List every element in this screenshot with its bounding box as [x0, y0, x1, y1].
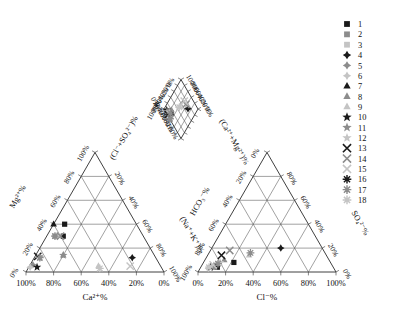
legend-item[interactable]: 9 [343, 103, 362, 112]
legend-label: 4 [358, 51, 363, 60]
cation-left-ticks-label: 40% [34, 217, 49, 233]
triangle-marker [343, 103, 350, 110]
legend-symbol-diamond [343, 61, 351, 69]
legend-label: 7 [358, 82, 362, 91]
legend-label: 3 [358, 41, 362, 50]
diamond-right-upper-tickmarks-tick [188, 90, 191, 92]
anion-left-axis-title: HCO₃⁻% [188, 185, 212, 217]
legend-item[interactable]: 18 [343, 196, 367, 205]
anion-left-ticks-label: 40% [220, 193, 235, 209]
cation-right-tickmarks-tick [150, 246, 153, 248]
cation-left-ticks-label: 100% [75, 144, 91, 163]
anion-right-tickmarks-tick [281, 175, 284, 177]
legend-item[interactable]: 11 [342, 123, 366, 133]
cation-right-tickmarks-tick [95, 151, 98, 153]
legend-label: 5 [358, 62, 362, 71]
legend-item[interactable]: 15 [343, 165, 366, 174]
anion-left-tickmarks-tick [264, 151, 267, 153]
anion-triangle-outline [198, 152, 336, 272]
legend-item[interactable]: 7 [343, 82, 362, 91]
legend-symbol-square [344, 21, 350, 27]
cation-right-tickmarks-tick [123, 199, 126, 201]
diamond-right-upper-ticks: 100%80%60%40%20%0% [184, 73, 216, 119]
legend-item[interactable]: 5 [343, 61, 362, 70]
asterisk-marker [167, 109, 175, 117]
diamond-right-lower-tickmarks-tick [181, 138, 184, 140]
legend-symbol-cross [343, 165, 351, 173]
legend-item[interactable]: 10 [342, 112, 366, 122]
legend-symbol-diamond [343, 51, 351, 59]
anion-triangle-grid [253, 200, 294, 272]
cation-triangle-grid [136, 248, 150, 272]
diamond-marker [343, 72, 351, 80]
cation-left-ticks-label: 80% [62, 169, 77, 185]
legend-symbol-triangle [343, 103, 350, 110]
square-marker [344, 21, 350, 27]
star-marker [342, 112, 351, 121]
cation-bottom-tick-label: 20% [129, 279, 144, 288]
diamond-right-upper-tickmarks-tick [198, 107, 201, 109]
anion-right-tickmarks [267, 151, 339, 272]
anion-left-ticks-label: 0% [248, 147, 261, 160]
legend-item[interactable]: 4 [343, 51, 363, 60]
diamond-right-lower-tickmarks-tick [195, 115, 198, 117]
cation-bottom-tick-label: 100% [16, 279, 36, 288]
legend-item[interactable]: 1 [344, 20, 362, 29]
legend-item[interactable]: 3 [344, 41, 362, 50]
legend-item[interactable]: 2 [344, 30, 362, 39]
cation-right-tickmarks-tick [164, 270, 167, 272]
legend-label: 11 [358, 124, 366, 133]
star-marker [342, 123, 351, 132]
anion-bottom-tick-label: 80% [301, 279, 316, 288]
square-marker [344, 31, 350, 37]
legend-label: 15 [358, 165, 366, 174]
legend-label: 18 [358, 196, 366, 205]
star-marker [59, 251, 67, 259]
legend-label: 9 [358, 103, 362, 112]
asterisk-marker [175, 103, 183, 111]
asterisk-marker [247, 249, 255, 257]
diamond-marker [343, 61, 351, 69]
legend-item[interactable]: 12 [342, 133, 366, 143]
cation-bottom-tick-label: 0% [158, 279, 169, 288]
cation-data-point [36, 254, 44, 262]
asterisk-marker [36, 254, 44, 262]
cation-triangle [26, 152, 164, 272]
legend-item[interactable]: 8 [343, 92, 362, 101]
legend-item[interactable]: 16 [343, 175, 367, 184]
legend-label: 1 [358, 20, 362, 29]
diamond-right-lower-tickmarks-tick [198, 109, 201, 111]
sample-legend: 123456789101112131415161718 [342, 20, 367, 205]
legend-symbol-square [344, 31, 350, 37]
cation-left-ticks-label: 20% [20, 241, 35, 257]
piper-diagram-figure: 0%20%40%60%80%100%100%80%60%40%20%0%100%… [0, 0, 397, 316]
diamond-left-upper-tickmarks-tick [171, 90, 174, 92]
anion-right-ticks-label: 60% [298, 194, 313, 210]
anion-left-tickmarks [195, 151, 267, 272]
legend-symbol-triangle [343, 92, 350, 99]
cross-marker [343, 165, 351, 173]
legend-item[interactable]: 17 [343, 185, 367, 194]
piper-diagram-canvas: 0%20%40%60%80%100%100%80%60%40%20%0%100%… [0, 0, 397, 316]
diamond-left-upper-tickmarks-tick [175, 84, 178, 86]
legend-item[interactable]: 14 [343, 154, 367, 163]
legend-label: 16 [358, 175, 366, 184]
cation-left-tickmarks-tick [23, 270, 26, 272]
diamond-left-axis-title: (Cl⁻+SO₄²⁻)% [108, 114, 140, 161]
cation-right-ticks-label: 60% [140, 218, 155, 234]
cation-left-axis-title: Mg²⁺% [8, 183, 28, 209]
cation-left-tickmarks [23, 151, 95, 272]
anion-data-point [214, 260, 222, 268]
anion-data-point [218, 252, 225, 259]
diamond-data-point [175, 103, 183, 111]
anion-right-tickmarks-tick [267, 151, 270, 153]
diamond-right-lower-tickmarks-tick [191, 121, 194, 123]
cation-left-tickmarks-tick [64, 199, 67, 201]
anion-triangle-grid [239, 200, 280, 272]
legend-item[interactable]: 13 [343, 144, 366, 153]
legend-label: 6 [358, 72, 362, 81]
legend-item[interactable]: 6 [343, 72, 362, 81]
square-marker [344, 42, 350, 48]
anion-triangle-grid [308, 248, 322, 272]
cation-right-tickmarks-tick [136, 222, 139, 224]
